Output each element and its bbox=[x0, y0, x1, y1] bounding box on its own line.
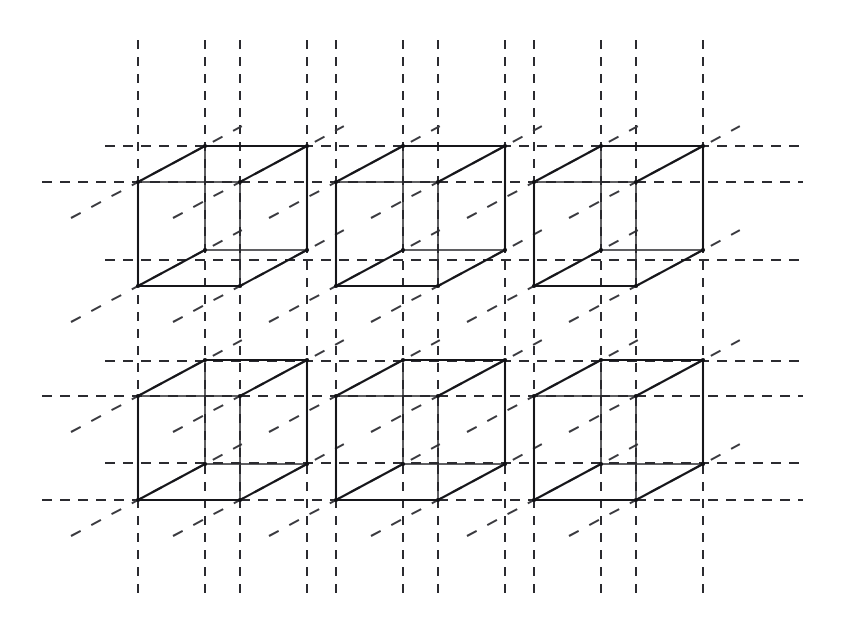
cube-r1-c2-node-3 bbox=[436, 180, 440, 184]
lattice-figure bbox=[0, 0, 841, 634]
cube-r2-c2-node-3 bbox=[436, 394, 440, 398]
cube-r1-c2-node-5 bbox=[503, 248, 507, 252]
cube-r1-c1-node-6 bbox=[203, 144, 207, 148]
cube-r2-c2-node-1 bbox=[436, 498, 440, 502]
cube-r1-c1-node-4 bbox=[203, 248, 207, 252]
cube-r2-c3-node-2 bbox=[532, 394, 536, 398]
cube-r2-c2-node-6 bbox=[401, 358, 405, 362]
cube-r2-c1-node-4 bbox=[203, 462, 207, 466]
cube-r1-c2-node-4 bbox=[401, 248, 405, 252]
cube-r1-c2-node-7 bbox=[503, 144, 507, 148]
cube-r2-c3-node-4 bbox=[599, 462, 603, 466]
cube-r1-c2-node-0 bbox=[334, 284, 338, 288]
cube-r2-c3-node-0 bbox=[532, 498, 536, 502]
cube-r1-c1-node-3 bbox=[238, 180, 242, 184]
cube-r2-c3-node-7 bbox=[701, 358, 705, 362]
cube-r2-c3-node-5 bbox=[701, 462, 705, 466]
cube-r2-c1-node-5 bbox=[305, 462, 309, 466]
cube-r2-c2-node-2 bbox=[334, 394, 338, 398]
cube-r2-c1-node-7 bbox=[305, 358, 309, 362]
cube-r1-c1-node-0 bbox=[136, 284, 140, 288]
cube-r1-c3-node-5 bbox=[701, 248, 705, 252]
cube-r1-c3-node-7 bbox=[701, 144, 705, 148]
cube-r2-c1-node-1 bbox=[238, 498, 242, 502]
cube-r2-c2-node-0 bbox=[334, 498, 338, 502]
cube-r2-c3-node-1 bbox=[634, 498, 638, 502]
cube-r1-c3-node-4 bbox=[599, 248, 603, 252]
cube-r1-c1-node-7 bbox=[305, 144, 309, 148]
cube-r2-c2-node-5 bbox=[503, 462, 507, 466]
cube-r2-c2-node-4 bbox=[401, 462, 405, 466]
lattice-canvas bbox=[0, 0, 841, 634]
cube-r1-c1-node-1 bbox=[238, 284, 242, 288]
cube-r2-c3-node-6 bbox=[599, 358, 603, 362]
cube-r1-c2-node-6 bbox=[401, 144, 405, 148]
cube-r1-c3-node-0 bbox=[532, 284, 536, 288]
cube-r2-c1-node-6 bbox=[203, 358, 207, 362]
cube-r2-c1-node-2 bbox=[136, 394, 140, 398]
cube-r2-c1-node-0 bbox=[136, 498, 140, 502]
cube-r1-c1-node-2 bbox=[136, 180, 140, 184]
cube-r2-c2-node-7 bbox=[503, 358, 507, 362]
cube-r1-c1-node-5 bbox=[305, 248, 309, 252]
figure-background bbox=[0, 0, 841, 634]
cube-r1-c3-node-6 bbox=[599, 144, 603, 148]
cube-r1-c2-node-2 bbox=[334, 180, 338, 184]
cube-r2-c1-node-3 bbox=[238, 394, 242, 398]
cube-r2-c3-node-3 bbox=[634, 394, 638, 398]
cube-r1-c2-node-1 bbox=[436, 284, 440, 288]
cube-r1-c3-node-1 bbox=[634, 284, 638, 288]
cube-r1-c3-node-3 bbox=[634, 180, 638, 184]
cube-r1-c3-node-2 bbox=[532, 180, 536, 184]
